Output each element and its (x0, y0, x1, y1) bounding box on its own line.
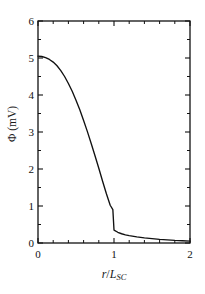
y-axis-symbol: Φ (6, 134, 18, 142)
x-axis-title: r/LSC (38, 268, 190, 284)
x-axis-minor-ticks (53, 21, 175, 243)
y-tick-label-5: 5 (20, 53, 34, 64)
y-axis-major-ticks (38, 21, 190, 243)
y-tick-label-3: 3 (20, 127, 34, 138)
y-axis-minor-ticks (38, 40, 190, 225)
y-tick-label-4: 4 (20, 90, 34, 101)
y-tick-label-6: 6 (20, 16, 34, 27)
x-tick-label-2: 2 (181, 249, 199, 260)
x-axis-subscript: SC (116, 272, 126, 282)
figure-container: 6 5 4 3 2 1 0 0 1 2 Φ (mV) r/LSC (0, 0, 205, 294)
x-tick-label-0: 0 (29, 249, 47, 260)
x-axis-major-ticks (38, 21, 190, 243)
y-tick-label-1: 1 (20, 201, 34, 212)
y-tick-label-2: 2 (20, 164, 34, 175)
y-tick-label-0: 0 (20, 238, 34, 249)
y-axis-unit: (mV) (6, 106, 18, 131)
data-series-line (38, 56, 190, 241)
x-tick-label-1: 1 (105, 249, 123, 260)
y-axis-title: Φ (mV) (6, 94, 18, 154)
plot-frame (38, 21, 190, 243)
